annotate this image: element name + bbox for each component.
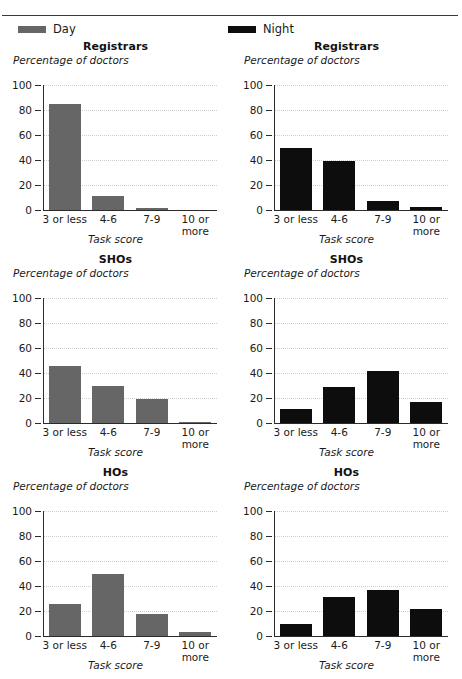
bar bbox=[92, 196, 124, 210]
y-tick-mark bbox=[35, 561, 41, 562]
y-tick-label: 0 bbox=[25, 630, 32, 642]
legend-item-day: Day bbox=[18, 24, 76, 36]
y-tick-label: 60 bbox=[250, 555, 263, 567]
y-tick-label: 40 bbox=[250, 154, 263, 166]
y-tick-mark bbox=[266, 135, 272, 136]
y-tick-mark bbox=[35, 511, 41, 512]
chart-title: Registrars bbox=[231, 40, 462, 53]
y-tick-mark bbox=[266, 348, 272, 349]
y-tick-label: 20 bbox=[250, 392, 263, 404]
y-tick-label: 80 bbox=[250, 530, 263, 542]
bar bbox=[323, 597, 355, 636]
plot-area: 020406080100 bbox=[43, 511, 217, 636]
x-axis-line bbox=[43, 210, 217, 211]
y-tick-mark bbox=[266, 511, 272, 512]
y-tick-label: 20 bbox=[250, 179, 263, 191]
bar bbox=[367, 590, 399, 636]
y-tick-mark bbox=[35, 423, 41, 424]
y-tick-mark bbox=[35, 398, 41, 399]
y-tick-mark bbox=[266, 110, 272, 111]
y-tick-mark bbox=[266, 636, 272, 637]
plot-area: 020406080100 bbox=[274, 511, 448, 636]
y-tick-mark bbox=[35, 536, 41, 537]
y-tick-mark bbox=[35, 160, 41, 161]
plot-area: 020406080100 bbox=[43, 85, 217, 210]
night-color-swatch bbox=[228, 26, 256, 33]
header-divider bbox=[2, 15, 458, 16]
y-tick-label: 100 bbox=[243, 79, 263, 91]
chart-hos-day: HOsPercentage of doctors0204060801003 or… bbox=[0, 466, 231, 679]
y-tick-mark bbox=[266, 298, 272, 299]
chart-row: RegistrarsPercentage of doctors020406080… bbox=[0, 40, 462, 253]
y-tick-mark bbox=[35, 135, 41, 136]
plot-area: 020406080100 bbox=[274, 85, 448, 210]
day-color-swatch bbox=[18, 26, 46, 33]
x-axis-label: Task score bbox=[0, 446, 231, 458]
y-tick-mark bbox=[35, 185, 41, 186]
bar bbox=[136, 399, 168, 423]
y-tick-label: 60 bbox=[19, 342, 32, 354]
y-tick-label: 100 bbox=[12, 292, 32, 304]
chart-registrars-day: RegistrarsPercentage of doctors020406080… bbox=[0, 40, 231, 253]
y-axis-line bbox=[274, 511, 275, 636]
bar-series-night bbox=[274, 511, 448, 636]
y-tick-label: 20 bbox=[19, 392, 32, 404]
bar bbox=[92, 386, 124, 424]
y-tick-mark bbox=[35, 210, 41, 211]
y-tick-mark bbox=[35, 373, 41, 374]
chart-registrars-night: RegistrarsPercentage of doctors020406080… bbox=[231, 40, 462, 253]
y-tick-label: 40 bbox=[19, 367, 32, 379]
y-tick-mark bbox=[266, 398, 272, 399]
y-tick-label: 100 bbox=[12, 505, 32, 517]
y-tick-label: 40 bbox=[19, 154, 32, 166]
bar bbox=[49, 604, 81, 637]
y-tick-label: 60 bbox=[19, 129, 32, 141]
y-tick-label: 20 bbox=[19, 605, 32, 617]
chart-shos-night: SHOsPercentage of doctors0204060801003 o… bbox=[231, 253, 462, 466]
x-axis-label: Task score bbox=[0, 233, 231, 245]
plot-area: 020406080100 bbox=[43, 298, 217, 423]
y-tick-label: 80 bbox=[19, 317, 32, 329]
y-tick-mark bbox=[35, 586, 41, 587]
bar bbox=[323, 387, 355, 423]
legend-item-night: Night bbox=[228, 24, 294, 36]
y-tick-mark bbox=[266, 210, 272, 211]
chart-title: SHOs bbox=[0, 253, 231, 266]
y-axis-label: Percentage of doctors bbox=[244, 267, 360, 279]
y-tick-label: 0 bbox=[256, 417, 263, 429]
x-axis-line bbox=[274, 636, 448, 637]
plot-area: 020406080100 bbox=[274, 298, 448, 423]
y-tick-mark bbox=[266, 323, 272, 324]
x-axis-label: Task score bbox=[231, 659, 462, 671]
chart-shos-day: SHOsPercentage of doctors0204060801003 o… bbox=[0, 253, 231, 466]
y-axis-label: Percentage of doctors bbox=[13, 267, 129, 279]
y-axis-line bbox=[274, 85, 275, 210]
y-tick-label: 20 bbox=[19, 179, 32, 191]
y-tick-mark bbox=[266, 185, 272, 186]
y-tick-mark bbox=[35, 298, 41, 299]
y-tick-label: 100 bbox=[243, 292, 263, 304]
y-tick-label: 80 bbox=[250, 104, 263, 116]
chart-hos-night: HOsPercentage of doctors0204060801003 or… bbox=[231, 466, 462, 679]
y-tick-mark bbox=[266, 423, 272, 424]
y-tick-mark bbox=[35, 323, 41, 324]
x-axis-line bbox=[274, 423, 448, 424]
bar bbox=[49, 366, 81, 424]
x-axis-line bbox=[274, 210, 448, 211]
bar bbox=[49, 104, 81, 210]
bar-series-night bbox=[274, 298, 448, 423]
y-tick-mark bbox=[266, 160, 272, 161]
y-axis-label: Percentage of doctors bbox=[13, 480, 129, 492]
y-tick-label: 80 bbox=[250, 317, 263, 329]
bar-series-night bbox=[274, 85, 448, 210]
y-tick-mark bbox=[266, 373, 272, 374]
y-tick-label: 60 bbox=[250, 342, 263, 354]
bar bbox=[280, 409, 312, 423]
bar bbox=[367, 201, 399, 210]
y-tick-mark bbox=[266, 536, 272, 537]
y-tick-label: 0 bbox=[25, 417, 32, 429]
y-tick-label: 80 bbox=[19, 530, 32, 542]
y-axis-label: Percentage of doctors bbox=[13, 54, 129, 66]
y-axis-label: Percentage of doctors bbox=[244, 54, 360, 66]
bar bbox=[280, 148, 312, 211]
